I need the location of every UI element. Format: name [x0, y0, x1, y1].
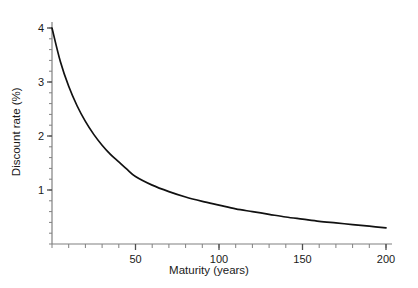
y-tick-label: 4 [18, 23, 44, 34]
x-tick-label: 50 [116, 254, 156, 265]
x-axis-title: Maturity (years) [0, 265, 418, 277]
x-tick-label: 150 [283, 254, 323, 265]
chart-figure: 1234 50100150200 Maturity (years) Discou… [0, 0, 418, 288]
data-line-discount-rate [52, 28, 386, 228]
x-tick-label: 200 [366, 254, 406, 265]
axes [52, 22, 392, 244]
y-axis-title: Discount rate (%) [11, 52, 23, 212]
chart-plot-area [0, 0, 418, 288]
